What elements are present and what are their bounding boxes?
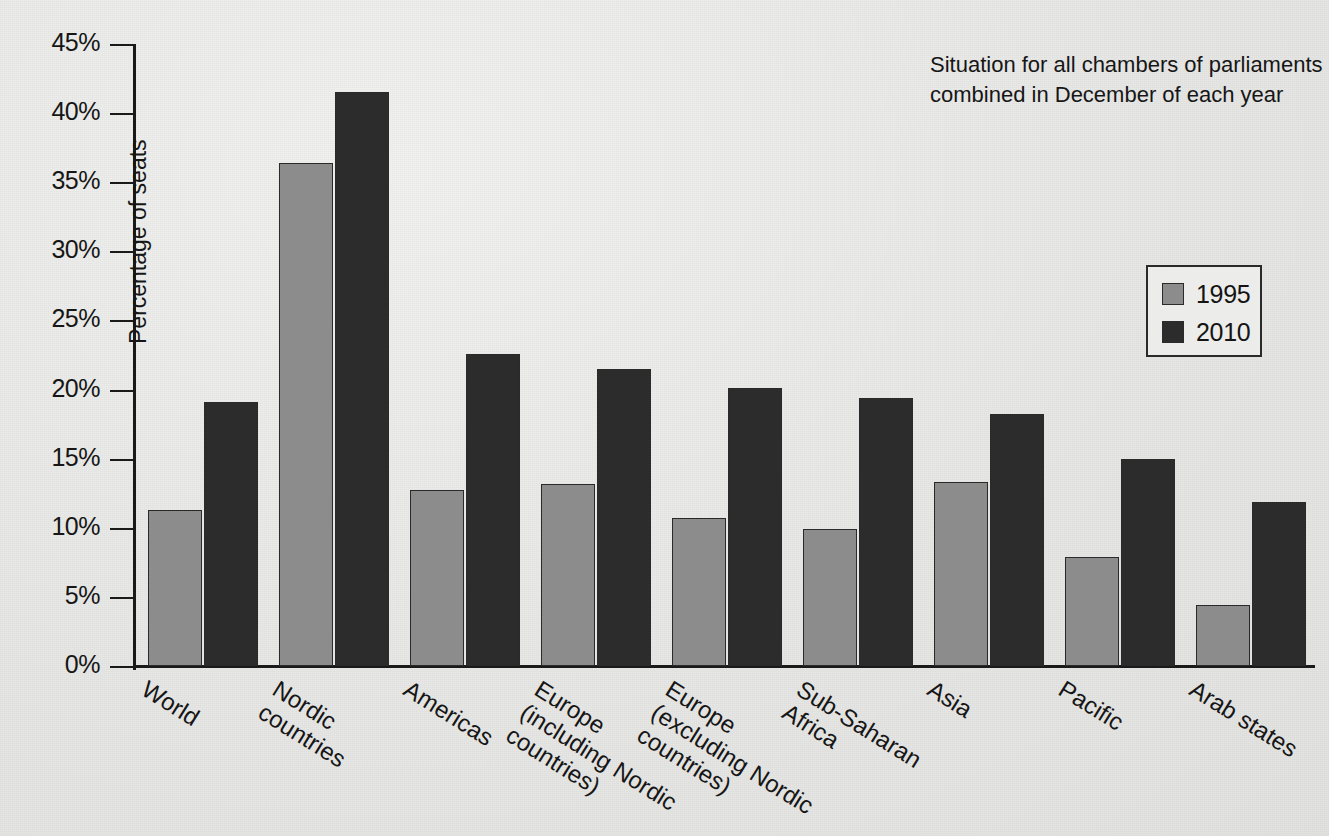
legend-swatch-2010 xyxy=(1162,321,1184,343)
chart-annotation: Situation for all chambers of parliament… xyxy=(930,50,1329,109)
x-label-line: Americas xyxy=(399,676,498,752)
y-tick-20 xyxy=(110,390,133,392)
annotation-line-2: combined in December of each year xyxy=(930,80,1329,110)
y-tick-5 xyxy=(110,597,133,599)
bar-pacific-2010 xyxy=(1121,459,1175,666)
y-tick-label: 0% xyxy=(10,650,100,679)
legend-label-2010: 2010 xyxy=(1196,318,1250,347)
bar-asia-1995 xyxy=(934,482,988,666)
bar-americas-1995 xyxy=(410,490,464,666)
x-label-nordic-countries: Nordiccountries xyxy=(253,676,364,773)
x-label-pacific: Pacific xyxy=(1054,676,1128,736)
bar-americas-2010 xyxy=(466,354,520,666)
x-label-line: Arab states xyxy=(1185,676,1302,763)
y-tick-label: 35% xyxy=(10,166,100,195)
bar-europe-excluding-nordic-countries-1995 xyxy=(672,518,726,666)
y-tick-label: 25% xyxy=(10,304,100,333)
bar-sub-saharan-africa-2010 xyxy=(859,398,913,666)
y-tick-30 xyxy=(110,251,133,253)
y-tick-label: 45% xyxy=(10,28,100,57)
legend-label-1995: 1995 xyxy=(1196,280,1250,309)
bar-pacific-1995 xyxy=(1065,557,1119,666)
y-tick-label: 15% xyxy=(10,443,100,472)
bar-asia-2010 xyxy=(990,414,1044,666)
legend-swatch-1995 xyxy=(1162,283,1184,305)
y-tick-40 xyxy=(110,113,133,115)
bar-sub-saharan-africa-1995 xyxy=(803,529,857,666)
bar-nordic-countries-1995 xyxy=(279,163,333,666)
y-tick-25 xyxy=(110,320,133,322)
y-tick-35 xyxy=(110,182,133,184)
x-label-world: World xyxy=(136,676,203,732)
y-axis-title: Percentage of seats xyxy=(125,139,152,344)
legend-item-2010: 2010 xyxy=(1148,313,1260,351)
y-tick-label: 20% xyxy=(10,374,100,403)
x-label-line: Asia xyxy=(923,676,977,724)
y-tick-45 xyxy=(110,44,133,46)
bar-chart: Percentage of seats 45%40%35%30%25%20%15… xyxy=(0,0,1329,836)
y-tick-label: 40% xyxy=(10,97,100,126)
x-label-line: Pacific xyxy=(1054,676,1128,736)
y-tick-label: 30% xyxy=(10,235,100,264)
bar-world-2010 xyxy=(204,402,258,666)
bar-europe-including-nordic-countries-2010 xyxy=(597,369,651,666)
bar-europe-excluding-nordic-countries-2010 xyxy=(728,388,782,666)
x-label-line: World xyxy=(136,676,203,732)
bar-europe-including-nordic-countries-1995 xyxy=(541,484,595,666)
bar-arab-states-1995 xyxy=(1196,605,1250,666)
y-tick-label: 5% xyxy=(10,581,100,610)
x-label-americas: Americas xyxy=(399,676,498,752)
bar-world-1995 xyxy=(148,510,202,666)
y-tick-0 xyxy=(110,666,133,668)
legend: 1995 2010 xyxy=(1146,265,1262,357)
bar-arab-states-2010 xyxy=(1252,502,1306,666)
y-tick-15 xyxy=(110,459,133,461)
bar-nordic-countries-2010 xyxy=(335,92,389,666)
y-tick-label: 10% xyxy=(10,512,100,541)
x-label-asia: Asia xyxy=(923,676,977,724)
annotation-line-1: Situation for all chambers of parliament… xyxy=(930,50,1329,80)
y-tick-10 xyxy=(110,528,133,530)
legend-item-1995: 1995 xyxy=(1148,275,1260,313)
x-label-arab-states: Arab states xyxy=(1185,676,1302,763)
